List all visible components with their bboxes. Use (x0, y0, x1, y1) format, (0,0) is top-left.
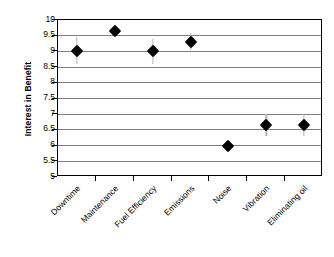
y-tick-label: 7.5 (15, 93, 55, 102)
plot-area (57, 19, 322, 176)
y-tick-label: 6.5 (15, 124, 55, 133)
x-tick-label: Emissions (162, 184, 196, 218)
gridline (58, 98, 321, 99)
x-tick-mark (284, 176, 285, 181)
y-tick-label: 8 (15, 77, 55, 86)
x-tick-label: Noise (212, 184, 234, 206)
y-tick-label: 5 (15, 172, 55, 181)
x-tick-mark (246, 176, 247, 181)
y-tick-label: 10 (15, 15, 55, 24)
x-tick-label: Eliminating oil (266, 184, 309, 227)
x-tick-mark (133, 176, 134, 181)
data-point-marker (146, 45, 159, 58)
x-tick-label: Downtime (49, 184, 82, 217)
gridline (58, 145, 321, 146)
y-tick-label: 9 (15, 46, 55, 55)
y-tick-label: 9.5 (15, 30, 55, 39)
gridline (58, 82, 321, 83)
gridline (58, 67, 321, 68)
x-tick-mark (95, 176, 96, 181)
x-tick-label: Vibration (242, 184, 272, 214)
y-tick-mark (52, 176, 57, 177)
y-tick-label: 7 (15, 109, 55, 118)
gridline (58, 129, 321, 130)
gridline (58, 161, 321, 162)
y-tick-label: 8.5 (15, 62, 55, 71)
x-tick-mark (171, 176, 172, 181)
gridline (58, 114, 321, 115)
data-point-marker (184, 36, 197, 49)
x-tick-mark (208, 176, 209, 181)
gridline (58, 51, 321, 52)
data-point-marker (222, 139, 235, 152)
x-category-label: Downtime (0, 184, 82, 257)
chart-container: Interest in Benefit 55.566.577.588.599.5… (0, 0, 334, 257)
y-tick-label: 6 (15, 140, 55, 149)
y-tick-label: 5.5 (15, 156, 55, 165)
data-point-marker (71, 45, 84, 58)
